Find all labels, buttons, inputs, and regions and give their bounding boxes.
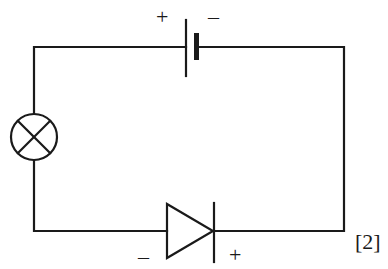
marks-label: [2]: [355, 231, 381, 253]
wires: [34, 47, 344, 231]
diode-icon: [167, 203, 214, 262]
battery-icon: [186, 20, 199, 76]
circuit-diagram: + – – + [2]: [0, 0, 388, 269]
circuit-svg: [0, 0, 388, 269]
diode-positive-label: +: [229, 244, 241, 266]
lamp-icon: [11, 114, 57, 160]
battery-negative-label: –: [208, 6, 219, 28]
battery-positive-label: +: [156, 6, 168, 28]
diode-negative-label: –: [138, 246, 149, 268]
